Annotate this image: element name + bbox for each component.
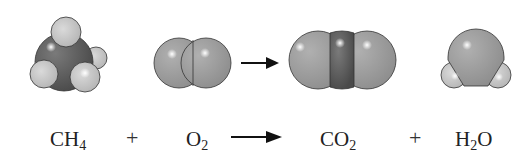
plus-sign: + xyxy=(126,127,138,149)
equation-arrow-icon xyxy=(231,131,282,143)
co2-model xyxy=(289,31,396,89)
formula-o2: O2 xyxy=(186,128,208,150)
formula-co2: CO2 xyxy=(320,128,356,150)
reaction-arrow-icon xyxy=(241,57,279,69)
hydrogen-atom xyxy=(30,60,58,88)
formula-ch4: CH4 xyxy=(50,128,86,150)
hydrogen-atom xyxy=(51,17,81,47)
formula-h2o: H2O xyxy=(455,128,492,150)
reaction-diagram: CH4 + O2 CO2 + H2O xyxy=(0,0,530,164)
h2o-model xyxy=(441,29,511,88)
oxygen-atom xyxy=(181,38,231,88)
plus-sign: + xyxy=(409,127,421,149)
ch4-model xyxy=(30,17,107,92)
o2-model xyxy=(154,38,231,88)
